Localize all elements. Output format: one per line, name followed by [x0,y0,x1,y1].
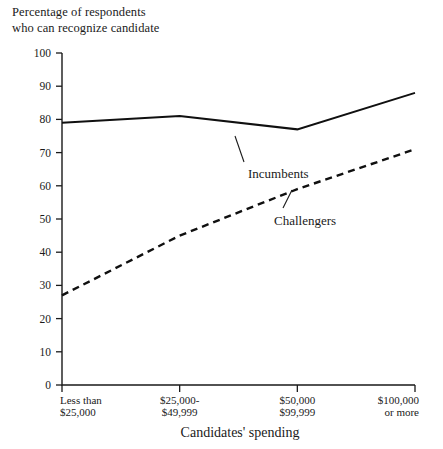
chart-plot-area: 0102030405060708090100 Incumbents Challe… [0,0,443,449]
series-label-challengers: Challengers [274,213,336,228]
axis-lines [62,53,415,385]
x-axis-tick-label: or more [384,406,419,418]
y-axis-tick-label: 80 [40,113,52,125]
series-label-incumbents: Incumbents [248,166,309,181]
y-axis-tick-label: 100 [34,47,52,59]
x-axis-tick-label: $99,999 [279,406,315,418]
y-axis-tick-label: 10 [40,346,52,358]
x-axis-tick-label: $25,000- [160,394,200,406]
challengers-leader-line [283,190,292,208]
series-line-incumbents [62,93,415,130]
series-line-challengers [62,149,415,295]
y-axis-tick-label: 50 [40,213,52,225]
y-axis-tick-label: 0 [45,379,51,391]
y-axis-tick-label: 70 [40,147,52,159]
x-axis-tick-label: $50,000 [279,394,315,406]
data-series-group [62,93,415,296]
x-axis-title: Candidates' spending [181,425,300,440]
y-axis-tick-group: 0102030405060708090100 [34,47,62,391]
x-axis-tick-group [62,385,415,392]
x-axis-label-group: Less than$25,000$25,000-$49,999$50,000$9… [60,394,420,418]
y-axis-tick-label: 60 [40,180,52,192]
y-axis-tick-label: 20 [40,313,52,325]
y-axis-tick-label: 30 [40,279,52,291]
x-axis-tick-label: $49,999 [162,406,198,418]
chart-container: Percentage of respondentswho can recogni… [0,0,443,449]
x-axis-tick-label: Less than [60,394,102,406]
incumbents-leader-line [235,136,244,162]
y-axis-tick-label: 40 [40,246,52,258]
x-axis-tick-label: $100,000 [378,394,420,406]
y-axis-tick-label: 90 [40,80,52,92]
x-axis-tick-label: $25,000 [60,406,96,418]
